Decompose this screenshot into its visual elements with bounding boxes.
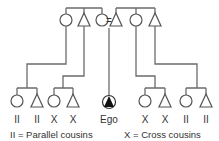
cousin-mark: X xyxy=(70,114,77,125)
cousin-symbol xyxy=(180,95,192,107)
fathers-brother-symbol xyxy=(149,13,161,26)
cousin-bar-2 xyxy=(54,88,73,95)
cousin-mark: X xyxy=(142,114,149,125)
fathers-sister-symbol xyxy=(130,14,142,26)
descent-line-mothers-sister xyxy=(27,26,66,88)
cousin-bar-3 xyxy=(145,88,165,95)
kinship-diagram: = II II X X Ego X X II II II = Parallel … xyxy=(0,0,219,141)
cousin-symbol xyxy=(31,94,43,107)
cousin-bar-1 xyxy=(17,88,37,95)
cousin-mark: II xyxy=(183,114,189,125)
descent-line-fathers-sister xyxy=(136,26,155,88)
mothers-sister-symbol xyxy=(60,14,72,26)
cousin-mark: X xyxy=(162,114,169,125)
cousin-bar-4 xyxy=(186,88,206,95)
cousin-symbol xyxy=(48,95,60,107)
descent-line-fathers-brother xyxy=(155,26,197,88)
cousin-mark: II xyxy=(14,114,20,125)
cousin-mark: X xyxy=(51,114,58,125)
mothers-brother-symbol xyxy=(78,13,90,26)
ego-label: Ego xyxy=(100,114,118,125)
right-sibling-bar xyxy=(116,8,155,14)
cousin-mark: II xyxy=(203,114,209,125)
ego-symbol xyxy=(103,96,116,109)
cousin-symbol xyxy=(139,95,151,107)
cousin-symbol xyxy=(11,95,23,107)
cousin-mark: II xyxy=(34,114,40,125)
cousin-symbol xyxy=(159,94,171,107)
cousin-symbol xyxy=(67,94,79,107)
legend-parallel-cousins: II = Parallel cousins xyxy=(10,129,93,140)
legend-cross-cousins: X = Cross cousins xyxy=(124,129,201,140)
cousin-symbol xyxy=(200,94,212,107)
